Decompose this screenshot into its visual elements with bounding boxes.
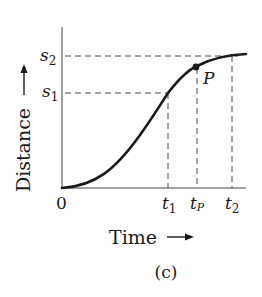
s2-label: s2: [40, 45, 56, 68]
t1-label: t1: [162, 193, 176, 216]
y-axis-label: Distance: [12, 108, 34, 192]
distance-curve: [62, 54, 246, 188]
tp-label: tP: [190, 193, 205, 214]
s1-label: s1: [42, 81, 58, 104]
figure-caption: (c): [155, 262, 178, 282]
point-p-marker: [193, 64, 200, 71]
point-p-label: P: [202, 68, 215, 88]
y-axis-title: Distance: [12, 108, 34, 192]
origin-label: 0: [56, 193, 67, 213]
x-arrow-icon: [167, 234, 194, 241]
t2-label: t2: [225, 193, 239, 216]
y-arrow-icon: [21, 64, 28, 95]
distance-time-diagram: P s2 s1 0 t1 tP t2 Distance Time (c): [0, 0, 262, 297]
x-axis-label: Time: [109, 226, 157, 248]
